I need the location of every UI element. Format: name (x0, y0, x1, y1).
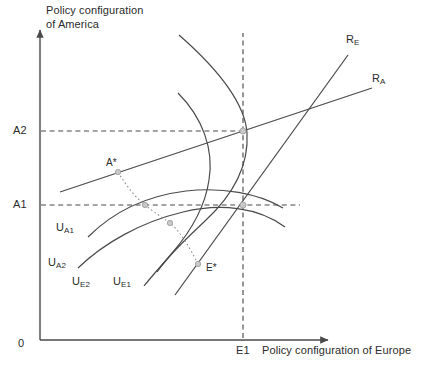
label-u-a2: UA2 (48, 256, 66, 269)
axis-group (40, 30, 328, 340)
label-e-star: E* (206, 261, 217, 274)
marker-nash-upper (240, 128, 246, 134)
label-r-a-base: R (372, 72, 380, 84)
marker-nash-lower (240, 202, 246, 208)
curve-u-e2 (157, 35, 247, 272)
label-u-a1-base: U (56, 221, 64, 233)
curve-u-a2 (78, 207, 285, 268)
label-u-e2-sub: E2 (80, 280, 90, 289)
europe-indifference-curves (144, 35, 247, 286)
label-u-a1: UA1 (56, 221, 74, 234)
x-axis-title: Policy configuration of Europe (262, 344, 411, 357)
contract-curve (118, 172, 198, 264)
label-r-e-sub: E (354, 38, 359, 47)
label-r-a: RA (372, 72, 385, 85)
label-a-star: A* (106, 156, 117, 169)
line-r-e (175, 55, 348, 295)
y-axis-title-line1: Policy configuration (46, 4, 143, 17)
diagram-canvas (0, 0, 432, 375)
label-u-e2: UE2 (72, 275, 90, 288)
label-u-a1-sub: A1 (64, 226, 74, 235)
label-u-e1: UE1 (113, 275, 131, 288)
label-r-a-sub: A (380, 77, 385, 86)
label-u-e2-base: U (72, 275, 80, 287)
y-axis-title-line2: of America (46, 18, 99, 31)
marker-e-star (195, 261, 200, 266)
label-u-a2-sub: A2 (56, 261, 66, 270)
origin-label: 0 (18, 337, 24, 350)
america-indifference-curves (78, 190, 285, 268)
label-u-a2-base: U (48, 256, 56, 268)
line-r-a (60, 88, 372, 192)
marker-tangency-mid (167, 220, 172, 225)
x-tick-label-e1: E1 (236, 344, 250, 357)
reaction-functions (60, 55, 372, 295)
label-u-e1-base: U (113, 275, 121, 287)
label-r-e-base: R (346, 33, 354, 45)
y-tick-label-a2: A2 (13, 124, 27, 137)
y-tick-label-a1: A1 (13, 198, 27, 211)
marker-tangency-a1 (142, 202, 147, 207)
label-u-e1-sub: E1 (121, 280, 131, 289)
policy-configuration-figure: Policy configuration of America Policy c… (0, 0, 432, 375)
contract-curve-group (118, 172, 198, 264)
marker-a-star (115, 169, 120, 174)
label-r-e: RE (346, 33, 359, 46)
curve-u-a1 (88, 190, 283, 237)
